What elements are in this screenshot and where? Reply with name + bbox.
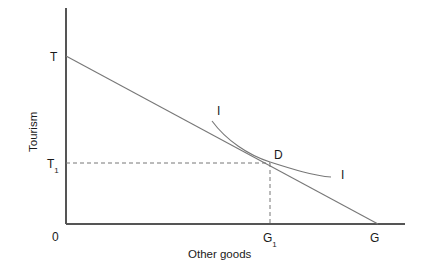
x-axis-title: Other goods [188,249,251,261]
indifference-curve-figure: Tourism Other goods 0 T T1 G1 G D I I [0,0,436,273]
label-indifference-curve-lower: I [341,169,344,181]
label-tourism-intercept: T [50,51,57,63]
origin-label: 0 [52,231,59,243]
indifference-curve [212,121,331,177]
budget-line [66,56,378,224]
label-goods-optimum: G1 [263,232,277,247]
label-tourism-optimum: T1 [47,158,59,173]
label-tangency-point: D [274,149,283,161]
label-goods-optimum-subscript: 1 [272,240,276,249]
label-goods-optimum-base: G [263,231,272,245]
y-axis-title: Tourism [28,112,40,152]
label-indifference-curve-upper: I [217,105,220,117]
label-tourism-optimum-subscript: 1 [54,166,58,175]
label-goods-intercept: G [370,232,379,244]
